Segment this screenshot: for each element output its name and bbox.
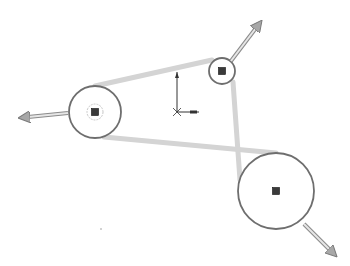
sketch-canvas[interactable] (0, 0, 350, 266)
arrow-top-icon[interactable] (231, 28, 256, 61)
arrow-left-icon[interactable] (28, 113, 68, 117)
circle-bottom[interactable] (238, 153, 314, 229)
belt-line[interactable] (95, 60, 212, 86)
circle-left[interactable] (69, 86, 121, 138)
center-point[interactable] (273, 188, 280, 195)
circle-top[interactable] (209, 58, 235, 84)
belt-lines (95, 60, 276, 180)
belt-line[interactable] (233, 82, 240, 180)
center-point[interactable] (219, 68, 226, 75)
arrow-bottom-icon[interactable] (304, 224, 330, 250)
belt-line[interactable] (104, 137, 276, 153)
center-point[interactable] (92, 109, 99, 116)
origin-icon (173, 72, 199, 116)
stray-point (100, 228, 102, 230)
